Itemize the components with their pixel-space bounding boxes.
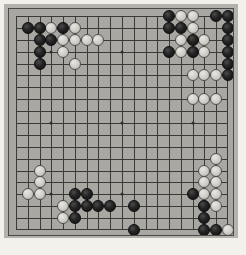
black-stone[interactable] bbox=[222, 69, 234, 81]
black-stone[interactable] bbox=[222, 22, 234, 34]
white-stone[interactable] bbox=[198, 93, 210, 105]
white-stone[interactable] bbox=[198, 188, 210, 200]
black-stone[interactable] bbox=[163, 22, 175, 34]
black-stone[interactable] bbox=[198, 224, 210, 236]
white-stone[interactable] bbox=[210, 200, 222, 212]
white-stone[interactable] bbox=[92, 34, 104, 46]
white-stone[interactable] bbox=[198, 34, 210, 46]
black-stone[interactable] bbox=[187, 188, 199, 200]
figure-caption bbox=[0, 243, 246, 252]
black-stone[interactable] bbox=[163, 46, 175, 58]
white-stone[interactable] bbox=[34, 165, 46, 177]
black-stone[interactable] bbox=[198, 212, 210, 224]
white-stone[interactable] bbox=[175, 10, 187, 22]
black-stone[interactable] bbox=[81, 200, 93, 212]
white-stone[interactable] bbox=[222, 224, 234, 236]
black-stone[interactable] bbox=[22, 22, 34, 34]
black-stone[interactable] bbox=[69, 212, 81, 224]
white-stone[interactable] bbox=[187, 69, 199, 81]
black-stone[interactable] bbox=[198, 200, 210, 212]
white-stone[interactable] bbox=[210, 176, 222, 188]
black-stone[interactable] bbox=[81, 188, 93, 200]
white-stone[interactable] bbox=[198, 176, 210, 188]
white-stone[interactable] bbox=[198, 165, 210, 177]
board-frame bbox=[4, 4, 238, 238]
black-stone[interactable] bbox=[34, 22, 46, 34]
black-stone[interactable] bbox=[175, 22, 187, 34]
black-stone[interactable] bbox=[34, 46, 46, 58]
black-stone[interactable] bbox=[34, 58, 46, 70]
white-stone[interactable] bbox=[187, 10, 199, 22]
star-point bbox=[121, 50, 124, 53]
black-stone[interactable] bbox=[45, 34, 57, 46]
white-stone[interactable] bbox=[69, 22, 81, 34]
black-stone[interactable] bbox=[92, 200, 104, 212]
white-stone[interactable] bbox=[187, 22, 199, 34]
star-point bbox=[121, 193, 124, 196]
black-stone[interactable] bbox=[34, 34, 46, 46]
star-point bbox=[50, 50, 53, 53]
white-stone[interactable] bbox=[198, 69, 210, 81]
black-stone[interactable] bbox=[222, 10, 234, 22]
white-stone[interactable] bbox=[45, 22, 57, 34]
star-point bbox=[191, 122, 194, 125]
star-point bbox=[50, 122, 53, 125]
white-stone[interactable] bbox=[57, 212, 69, 224]
white-stone[interactable] bbox=[34, 188, 46, 200]
white-stone[interactable] bbox=[198, 46, 210, 58]
white-stone[interactable] bbox=[57, 46, 69, 58]
white-stone[interactable] bbox=[210, 69, 222, 81]
white-stone[interactable] bbox=[81, 34, 93, 46]
white-stone[interactable] bbox=[69, 58, 81, 70]
page-root bbox=[0, 0, 246, 255]
black-stone[interactable] bbox=[187, 34, 199, 46]
black-stone[interactable] bbox=[187, 46, 199, 58]
black-stone[interactable] bbox=[104, 200, 116, 212]
black-stone[interactable] bbox=[222, 34, 234, 46]
black-stone[interactable] bbox=[57, 22, 69, 34]
black-stone[interactable] bbox=[128, 200, 140, 212]
star-point bbox=[50, 193, 53, 196]
white-stone[interactable] bbox=[210, 188, 222, 200]
black-stone[interactable] bbox=[222, 46, 234, 58]
black-stone[interactable] bbox=[128, 224, 140, 236]
white-stone[interactable] bbox=[69, 34, 81, 46]
white-stone[interactable] bbox=[210, 165, 222, 177]
black-stone[interactable] bbox=[210, 10, 222, 22]
white-stone[interactable] bbox=[175, 46, 187, 58]
white-stone[interactable] bbox=[57, 200, 69, 212]
black-stone[interactable] bbox=[222, 58, 234, 70]
white-stone[interactable] bbox=[210, 93, 222, 105]
go-board[interactable] bbox=[8, 8, 234, 236]
white-stone[interactable] bbox=[187, 93, 199, 105]
black-stone[interactable] bbox=[69, 188, 81, 200]
white-stone[interactable] bbox=[175, 34, 187, 46]
black-stone[interactable] bbox=[163, 10, 175, 22]
white-stone[interactable] bbox=[210, 153, 222, 165]
black-stone[interactable] bbox=[210, 224, 222, 236]
white-stone[interactable] bbox=[22, 188, 34, 200]
black-stone[interactable] bbox=[69, 200, 81, 212]
star-point bbox=[121, 122, 124, 125]
white-stone[interactable] bbox=[34, 176, 46, 188]
white-stone[interactable] bbox=[57, 34, 69, 46]
